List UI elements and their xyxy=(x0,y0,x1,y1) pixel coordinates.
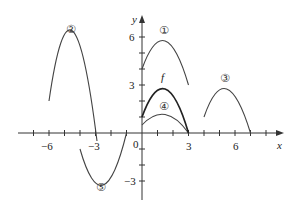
axes xyxy=(18,15,284,200)
curve-4-label: ④ xyxy=(159,100,169,113)
curve-2-label: ② xyxy=(66,23,76,36)
curve-2 xyxy=(49,30,97,141)
curve-5 xyxy=(80,133,127,185)
x-tick-label-neg3: −3 xyxy=(88,140,100,152)
y-axis-arrow-icon xyxy=(139,15,145,23)
curve-3 xyxy=(204,89,251,133)
x-axis-label: x xyxy=(276,139,282,151)
origin-label: 0 xyxy=(133,138,139,150)
x-tick-label-6: 6 xyxy=(233,140,239,152)
curve-f-label: f xyxy=(161,71,166,83)
y-axis-label: y xyxy=(131,13,137,25)
x-axis-arrow-icon xyxy=(276,130,284,136)
curves xyxy=(49,30,251,185)
y-tick-label-neg3: −3 xyxy=(124,175,136,187)
curve-5-label: ⑤ xyxy=(96,181,106,194)
curve-4 xyxy=(142,114,189,133)
x-tick-label-neg6: −6 xyxy=(41,140,53,152)
curve-1 xyxy=(142,41,189,85)
x-tick-label-3: 3 xyxy=(186,140,192,152)
y-tick-label-6: 6 xyxy=(129,31,135,43)
function-transformations-chart: −6 −3 0 3 6 x 6 3 −3 y ① ② ③ ④ ⑤ f xyxy=(0,0,302,210)
curve-3-label: ③ xyxy=(220,72,230,85)
curve-1-label: ① xyxy=(159,24,169,37)
y-tick-label-3: 3 xyxy=(129,79,135,91)
